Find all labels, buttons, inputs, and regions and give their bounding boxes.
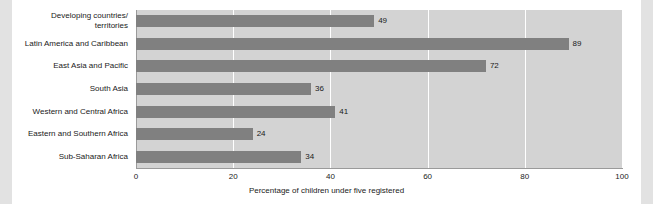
bar	[136, 60, 486, 72]
category-label: South Asia	[0, 84, 128, 94]
bar-value-label: 24	[257, 130, 266, 138]
bar-row: 41	[136, 106, 622, 118]
category-label: East Asia and Pacific	[0, 61, 128, 71]
bar-row: 72	[136, 60, 622, 72]
bar-row: 89	[136, 38, 622, 50]
category-label: Sub-Saharan Africa	[0, 152, 128, 162]
bar-value-label: 89	[573, 40, 582, 48]
page-background: 49897236412434 Developing countries/ ter…	[0, 0, 653, 204]
bar-value-label: 49	[378, 17, 387, 25]
x-tick-label: 0	[134, 172, 138, 181]
bar-value-label: 36	[315, 85, 324, 93]
x-tick-label: 100	[615, 172, 628, 181]
plot-area: 49897236412434	[136, 10, 622, 168]
category-label: Eastern and Southern Africa	[0, 129, 128, 139]
x-tick-label: 60	[423, 172, 432, 181]
bar	[136, 128, 253, 140]
bar	[136, 151, 301, 163]
gridline	[622, 10, 623, 168]
bar-row: 49	[136, 15, 622, 27]
x-tick-label: 20	[229, 172, 238, 181]
bar-row: 34	[136, 151, 622, 163]
bar-row: 36	[136, 83, 622, 95]
category-label: Western and Central Africa	[0, 107, 128, 117]
bar-value-label: 72	[490, 62, 499, 70]
bar	[136, 106, 335, 118]
category-label: Latin America and Caribbean	[0, 39, 128, 49]
x-tick-label: 80	[520, 172, 529, 181]
x-axis-title: Percentage of children under five regist…	[0, 186, 653, 195]
bar-row: 24	[136, 128, 622, 140]
bar	[136, 38, 569, 50]
bar-chart: 49897236412434 Developing countries/ ter…	[0, 0, 653, 204]
x-axis-line	[136, 168, 623, 169]
x-tick-label: 40	[326, 172, 335, 181]
bar-value-label: 34	[305, 153, 314, 161]
bar	[136, 83, 311, 95]
category-label: Developing countries/ territories	[0, 11, 128, 31]
bar-value-label: 41	[339, 108, 348, 116]
bar	[136, 15, 374, 27]
